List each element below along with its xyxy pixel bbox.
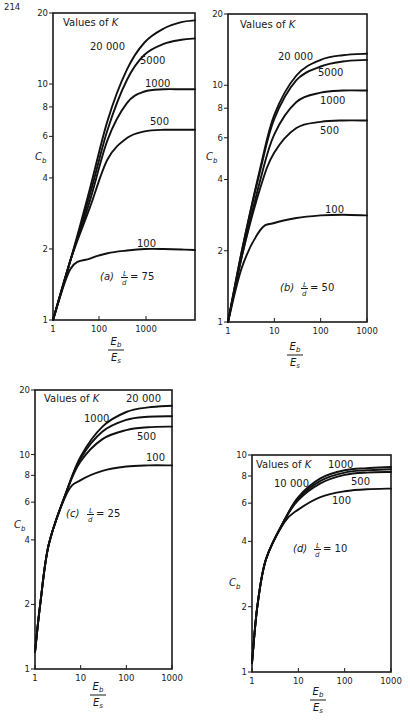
- legend-title: Values of K: [63, 17, 120, 28]
- x-axis-label-den: Es: [313, 702, 323, 715]
- y-tick-label: 6: [43, 131, 48, 141]
- x-tick-label: 1000: [356, 326, 378, 336]
- y-tick-label: 2: [43, 244, 48, 254]
- series-label: 100: [137, 238, 156, 249]
- ratio-denominator: d: [122, 279, 127, 287]
- y-axis-label: Cb: [35, 151, 47, 165]
- ratio-numerator: L: [89, 507, 93, 515]
- y-tick-label: 1: [25, 664, 30, 674]
- y-tick-label: 4: [242, 536, 247, 546]
- x-tick-label: 1: [50, 324, 55, 334]
- y-tick-label: 8: [43, 102, 48, 112]
- series-label: 1000: [328, 459, 353, 470]
- x-axis-label-den: Es: [111, 352, 121, 365]
- x-axis-label-num: Eb: [93, 681, 104, 694]
- x-tick-label: 100: [313, 326, 329, 336]
- panel-label: (a): [100, 271, 114, 282]
- y-tick-label: 20: [19, 385, 30, 395]
- legend-title: Values of K: [256, 459, 313, 470]
- y-tick-label: 6: [218, 133, 223, 143]
- series-label: 5000: [318, 67, 343, 78]
- y-tick-label: 10: [236, 450, 247, 460]
- panel-label: (c): [66, 508, 79, 519]
- y-tick-label: 8: [218, 103, 223, 113]
- y-tick-label: 2: [218, 246, 223, 256]
- y-tick-label: 20: [212, 9, 223, 19]
- x-axis-label-den: Es: [93, 697, 103, 710]
- ratio-value: = 10: [323, 543, 347, 554]
- y-tick-label: 10: [19, 450, 30, 460]
- y-tick-label: 2: [25, 599, 30, 609]
- series-label: 1000: [145, 78, 170, 89]
- x-tick-label: 1: [32, 673, 37, 683]
- plot-frame-d: [252, 455, 391, 672]
- y-tick-label: 6: [25, 497, 30, 507]
- ratio-numerator: L: [316, 542, 320, 550]
- curve-k-500: [252, 472, 391, 663]
- y-tick-label: 2: [242, 602, 247, 612]
- y-tick-label: 6: [242, 498, 247, 508]
- x-tick-label: 100: [118, 673, 134, 683]
- curve-k-500: [53, 130, 195, 320]
- y-tick-label: 4: [25, 535, 30, 545]
- series-label: 100: [146, 452, 165, 463]
- ratio-denominator: d: [302, 290, 307, 298]
- x-axis-label-den: Es: [290, 357, 300, 370]
- x-axis-label-num: Eb: [313, 686, 324, 699]
- y-tick-label: 1: [242, 667, 247, 677]
- legend-title: Values of K: [44, 393, 101, 404]
- curve-k-20000: [35, 406, 172, 652]
- panel-label: (b): [280, 282, 294, 293]
- x-tick-label: 1000: [161, 673, 183, 683]
- x-axis-label-num: Eb: [290, 341, 301, 354]
- curve-k-100: [252, 489, 391, 663]
- series-label: 100: [332, 495, 351, 506]
- curve-k-20000: [228, 54, 367, 322]
- series-label: 500: [150, 116, 169, 127]
- x-tick-label: 1: [249, 676, 254, 686]
- x-tick-label: 100: [337, 676, 353, 686]
- ratio-value: = 25: [96, 508, 120, 519]
- x-axis-label-num: Eb: [111, 336, 122, 349]
- ratio-value: = 50: [310, 282, 334, 293]
- y-axis-label: Cb: [229, 577, 241, 591]
- series-label: 10 000: [274, 478, 309, 489]
- series-label: 20 000: [278, 51, 313, 62]
- y-axis-label: Cb: [206, 151, 218, 165]
- y-tick-label: 4: [43, 173, 48, 183]
- y-tick-label: 8: [25, 470, 30, 480]
- curve-k-5000: [228, 60, 367, 322]
- ratio-numerator: L: [123, 270, 127, 278]
- series-label: 500: [320, 125, 339, 136]
- y-tick-label: 1: [218, 317, 223, 327]
- series-label: 1000: [320, 95, 345, 106]
- ratio-denominator: d: [315, 551, 320, 559]
- ratio-value: = 75: [130, 271, 154, 282]
- x-tick-label: 100: [91, 324, 107, 334]
- x-tick-label: 1000: [135, 324, 157, 334]
- x-tick-label: 1000: [380, 676, 402, 686]
- y-tick-label: 1: [43, 315, 48, 325]
- page-number: 214: [4, 2, 20, 12]
- legend-title: Values of K: [240, 19, 297, 30]
- figure-canvas: 2141246810201100100020 00050001000500100…: [0, 0, 410, 724]
- series-label: 20 000: [90, 41, 125, 52]
- y-tick-label: 20: [37, 8, 48, 18]
- panel-label: (d): [293, 543, 307, 554]
- series-label: 20 000: [126, 393, 161, 404]
- ratio-denominator: d: [88, 516, 93, 524]
- curve-k-100: [35, 465, 172, 652]
- y-tick-label: 8: [242, 471, 247, 481]
- series-label: 500: [137, 431, 156, 442]
- series-label: 500: [351, 476, 370, 487]
- series-label: 5000: [140, 55, 165, 66]
- x-tick-label: 10: [293, 676, 304, 686]
- series-label: 1000: [84, 413, 109, 424]
- curve-k-1000: [228, 90, 367, 322]
- x-tick-label: 10: [75, 673, 86, 683]
- y-axis-label: Cb: [14, 519, 26, 533]
- x-tick-label: 1: [225, 326, 230, 336]
- ratio-numerator: L: [303, 281, 307, 289]
- y-tick-label: 10: [212, 80, 223, 90]
- y-tick-label: 10: [37, 79, 48, 89]
